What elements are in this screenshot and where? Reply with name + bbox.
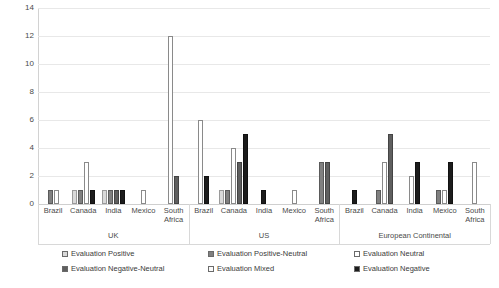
x-axis-country-labels: BrazilCanadaIndiaMexicoSouth AfricaBrazi… bbox=[38, 206, 490, 232]
x-axis-baseline bbox=[38, 204, 490, 205]
x-tick-label: Brazil bbox=[38, 206, 68, 215]
bar-cluster bbox=[219, 8, 249, 204]
legend-label: Evaluation Positive-Neutral bbox=[217, 249, 307, 258]
bar-group bbox=[430, 8, 460, 204]
bar bbox=[198, 120, 203, 204]
legend-item[interactable]: Evaluation Positive bbox=[62, 249, 134, 258]
bar-cluster bbox=[38, 8, 68, 204]
bar bbox=[352, 190, 357, 204]
y-tick-label: 6 bbox=[4, 116, 34, 124]
bar-group bbox=[460, 8, 490, 204]
bar-group bbox=[189, 8, 219, 204]
bar bbox=[261, 190, 266, 204]
bar-cluster bbox=[279, 8, 309, 204]
bar bbox=[292, 190, 297, 204]
bar-group bbox=[159, 8, 189, 204]
bar-chart: 02468101214 BrazilCanadaIndiaMexicoSouth… bbox=[0, 0, 499, 288]
x-tick-label: Canada bbox=[219, 206, 249, 215]
x-tick-label: Canada bbox=[369, 206, 399, 215]
plot-area bbox=[38, 8, 490, 204]
x-group-label: UK bbox=[38, 231, 189, 241]
legend-label: Evaluation Mixed bbox=[217, 264, 274, 273]
y-tick-label: 10 bbox=[4, 60, 34, 68]
bar bbox=[237, 162, 242, 204]
bar bbox=[72, 190, 77, 204]
bar-group bbox=[339, 8, 369, 204]
bar bbox=[442, 190, 447, 204]
bar-group bbox=[369, 8, 399, 204]
y-tick-label: 14 bbox=[4, 4, 34, 12]
x-tick-label: South Africa bbox=[460, 206, 490, 224]
bar bbox=[409, 176, 414, 204]
bar bbox=[231, 148, 236, 204]
bar bbox=[376, 190, 381, 204]
bar-group bbox=[98, 8, 128, 204]
legend-item[interactable]: Evaluation Positive-Neutral bbox=[208, 249, 307, 258]
bar-cluster bbox=[189, 8, 219, 204]
legend-label: Evaluation Negative-Neutral bbox=[71, 264, 164, 273]
bar-group bbox=[68, 8, 98, 204]
bar-group bbox=[219, 8, 249, 204]
bar-cluster bbox=[430, 8, 460, 204]
legend-swatch-icon bbox=[208, 251, 214, 257]
bar-group bbox=[128, 8, 158, 204]
bar bbox=[225, 190, 230, 204]
x-tick-label: India bbox=[249, 206, 279, 215]
legend-swatch-icon bbox=[354, 251, 360, 257]
bar bbox=[382, 162, 387, 204]
legend-item[interactable]: Evaluation Negative-Neutral bbox=[62, 264, 164, 273]
bar-group bbox=[38, 8, 68, 204]
bar bbox=[243, 134, 248, 204]
bar bbox=[141, 190, 146, 204]
x-tick-label: South Africa bbox=[159, 206, 189, 224]
bar bbox=[448, 162, 453, 204]
legend-label: Evaluation Neutral bbox=[363, 249, 424, 258]
bar-group bbox=[249, 8, 279, 204]
x-tick-label: India bbox=[400, 206, 430, 215]
bar-cluster bbox=[400, 8, 430, 204]
chart-legend: Evaluation PositiveEvaluation Positive-N… bbox=[62, 249, 462, 283]
legend-label: Evaluation Negative bbox=[363, 264, 430, 273]
bar-cluster bbox=[369, 8, 399, 204]
bar bbox=[78, 190, 83, 204]
y-tick-label: 12 bbox=[4, 32, 34, 40]
bar bbox=[325, 162, 330, 204]
y-tick-label: 0 bbox=[4, 200, 34, 208]
bar-group bbox=[400, 8, 430, 204]
bar bbox=[415, 162, 420, 204]
x-group-label: European Continental bbox=[339, 231, 490, 241]
x-tick-label: Brazil bbox=[189, 206, 219, 215]
legend-item[interactable]: Evaluation Neutral bbox=[354, 249, 424, 258]
bar bbox=[436, 190, 441, 204]
bar bbox=[114, 190, 119, 204]
bar-cluster bbox=[460, 8, 490, 204]
x-tick-label: Brazil bbox=[339, 206, 369, 215]
bar bbox=[219, 190, 224, 204]
legend-swatch-icon bbox=[354, 266, 360, 272]
legend-item[interactable]: Evaluation Mixed bbox=[208, 264, 274, 273]
bar bbox=[84, 162, 89, 204]
x-tick-label: Mexico bbox=[128, 206, 158, 215]
legend-row-top: Evaluation PositiveEvaluation Positive-N… bbox=[62, 249, 462, 263]
y-tick-label: 2 bbox=[4, 172, 34, 180]
legend-swatch-icon bbox=[208, 266, 214, 272]
bar-cluster bbox=[339, 8, 369, 204]
bar-cluster bbox=[249, 8, 279, 204]
x-tick-label: India bbox=[98, 206, 128, 215]
bar-cluster bbox=[159, 8, 189, 204]
bar bbox=[388, 134, 393, 204]
y-tick-label: 4 bbox=[4, 144, 34, 152]
bar bbox=[204, 176, 209, 204]
bar bbox=[168, 36, 173, 204]
y-axis-ticks: 02468101214 bbox=[0, 8, 34, 204]
legend-row-bottom: Evaluation Negative-NeutralEvaluation Mi… bbox=[62, 264, 462, 278]
x-axis-outer-line bbox=[38, 244, 490, 245]
legend-item[interactable]: Evaluation Negative bbox=[354, 264, 430, 273]
bar-cluster bbox=[68, 8, 98, 204]
x-tick-label: South Africa bbox=[309, 206, 339, 224]
bar bbox=[108, 190, 113, 204]
bar-group bbox=[279, 8, 309, 204]
bar bbox=[102, 190, 107, 204]
bar bbox=[472, 162, 477, 204]
bar bbox=[120, 190, 125, 204]
